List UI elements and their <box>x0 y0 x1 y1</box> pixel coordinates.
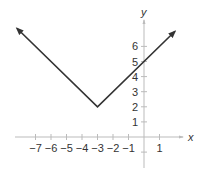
x-tick-label: −4 <box>76 142 89 154</box>
x-tick-label: 1 <box>156 142 162 154</box>
x-tick-label: −1 <box>122 142 135 154</box>
y-tick-label: 1 <box>132 116 138 128</box>
y-tick-label: 6 <box>132 40 138 52</box>
absolute-value-graph: −7−6−5−4−3−2−11123456 x y <box>0 0 203 172</box>
x-tick-label: −2 <box>107 142 120 154</box>
x-tick-label: −3 <box>91 142 104 154</box>
series-lines <box>17 28 175 107</box>
y-axis-label: y <box>140 6 148 18</box>
x-tick-label: −5 <box>60 142 73 154</box>
absolute-value-curve <box>17 28 175 107</box>
y-tick-label: 3 <box>132 86 138 98</box>
x-axis-label: x <box>187 131 194 143</box>
y-tick-label: 5 <box>132 56 138 68</box>
chart-canvas: −7−6−5−4−3−2−11123456 x y <box>0 0 203 172</box>
x-tick-label: −6 <box>45 142 58 154</box>
tick-marks <box>36 46 160 152</box>
x-tick-label: −7 <box>29 142 42 154</box>
y-tick-label: 2 <box>132 101 138 113</box>
